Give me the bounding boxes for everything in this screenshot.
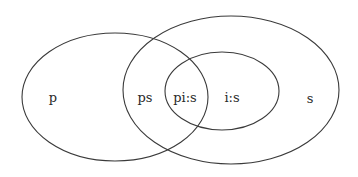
label-p-and-i: pi:s	[173, 90, 197, 105]
label-i-only: i:s	[224, 90, 239, 105]
label-p-and-s: ps	[138, 90, 153, 105]
label-s-only: s	[307, 91, 314, 106]
label-p-only: p	[49, 90, 57, 105]
venn-diagram: p ps pi:s i:s s	[0, 0, 358, 177]
